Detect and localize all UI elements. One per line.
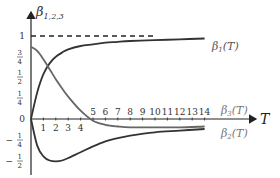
x-tick-label: 3 xyxy=(65,123,71,133)
x-tick-marks: 1234567891011121314 xyxy=(41,107,211,133)
y-tick-1-4: 14 xyxy=(17,90,23,107)
beta3-label: β3(T) xyxy=(220,104,248,118)
svg-text:2: 2 xyxy=(18,162,22,170)
x-tick-label: 8 xyxy=(127,107,133,117)
svg-text:−: − xyxy=(5,156,13,166)
beta-functions-chart: β1,2,3 T 1 34 12 14 0 −14 −12 1234567891… xyxy=(0,0,280,178)
svg-text:1: 1 xyxy=(18,90,22,98)
x-tick-label: 4 xyxy=(78,123,84,133)
x-tick-label: 14 xyxy=(199,107,211,117)
x-tick-label: 9 xyxy=(140,107,146,117)
svg-text:4: 4 xyxy=(18,58,23,66)
svg-text:1: 1 xyxy=(19,31,25,41)
x-tick-label: 5 xyxy=(90,107,96,117)
x-tick-label: 10 xyxy=(149,107,161,117)
svg-text:4: 4 xyxy=(18,141,23,149)
y-tick-1-2: 12 xyxy=(17,69,23,86)
y-tick-3-4: 34 xyxy=(17,49,23,66)
svg-text:2: 2 xyxy=(18,78,22,86)
x-tick-label: 2 xyxy=(53,123,59,133)
svg-text:4: 4 xyxy=(18,99,23,107)
svg-text:1: 1 xyxy=(18,69,22,77)
svg-text:−: − xyxy=(5,135,13,145)
y-axis-label: β1,2,3 xyxy=(35,4,64,21)
svg-text:3: 3 xyxy=(18,49,22,57)
y-tick-neg-1-2: −12 xyxy=(5,153,23,170)
x-axis-label: T xyxy=(260,111,271,127)
beta2-label: β2(T) xyxy=(220,127,248,141)
y-tick-neg-1-4: −14 xyxy=(5,132,23,149)
beta1-label: β1(T) xyxy=(211,40,239,54)
x-tick-label: 6 xyxy=(103,107,109,117)
x-tick-label: 11 xyxy=(162,107,173,117)
svg-text:1: 1 xyxy=(18,132,22,140)
x-tick-label: 12 xyxy=(174,107,185,117)
x-tick-label: 7 xyxy=(115,107,121,117)
x-tick-label: 1 xyxy=(41,123,47,133)
svg-text:0: 0 xyxy=(19,114,25,124)
y-tick-labels: 1 34 12 14 0 −14 −12 xyxy=(5,31,25,170)
x-tick-label: 13 xyxy=(186,107,198,117)
svg-text:1: 1 xyxy=(18,153,22,161)
